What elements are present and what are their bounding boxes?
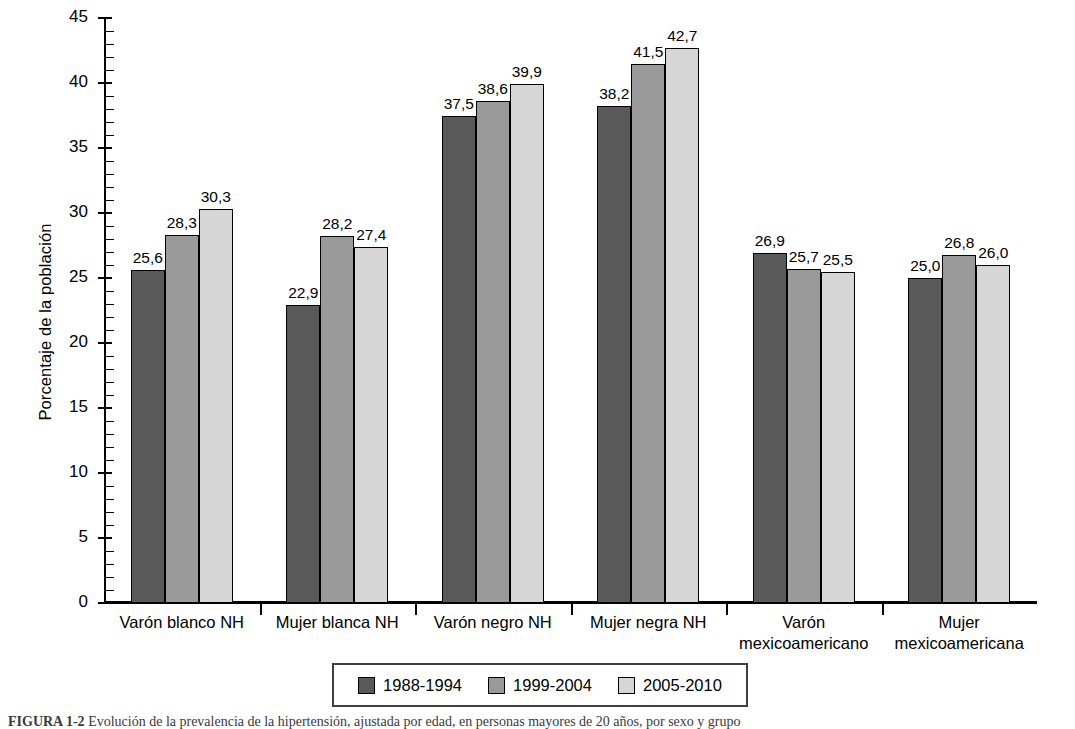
figure-caption: FIGURA 1-2 Evolución de la prevalencia d… (8, 714, 1068, 729)
y-axis-tick-label: 45 (46, 7, 88, 27)
x-axis-category-line: mexicoamericana (864, 633, 1054, 654)
y-axis-tick-label: 25 (46, 267, 88, 287)
bar (787, 269, 821, 603)
bar (631, 64, 665, 604)
bar (908, 278, 942, 603)
legend-swatch (488, 677, 505, 694)
x-axis-category-label: Mujermexicoamericana (864, 612, 1054, 654)
bar-value-label: 25,5 (811, 251, 865, 269)
bar (354, 247, 388, 603)
legend-swatch (358, 677, 375, 694)
bar (131, 270, 165, 603)
bar (942, 255, 976, 603)
bar (597, 106, 631, 603)
bar-value-label: 39,9 (500, 63, 554, 81)
bar (199, 209, 233, 603)
bar (753, 253, 787, 603)
bar (320, 236, 354, 603)
chart-legend: 1988-19941999-20042005-2010 (332, 663, 748, 707)
y-axis-tick-label: 30 (46, 202, 88, 222)
bar (476, 101, 510, 603)
y-axis-tick-label: 5 (46, 527, 88, 547)
y-axis-tick-label: 15 (46, 397, 88, 417)
chart-figure: Porcentaje de la población 0510152025303… (0, 0, 1075, 729)
bar (286, 305, 320, 603)
bar-value-label: 42,7 (655, 27, 709, 45)
plot-area: 25,628,330,322,928,227,437,538,639,938,2… (104, 18, 1037, 603)
bar-value-label: 26,0 (966, 244, 1020, 262)
bar (665, 48, 699, 603)
y-axis-tick-label: 0 (46, 592, 88, 612)
legend-item: 1988-1994 (358, 676, 462, 695)
bar (165, 235, 199, 603)
legend-item: 1999-2004 (488, 676, 592, 695)
bar (821, 272, 855, 604)
legend-swatch (618, 677, 635, 694)
bar (976, 265, 1010, 603)
legend-label: 2005-2010 (643, 676, 722, 695)
bar-value-label: 30,3 (189, 188, 243, 206)
legend-label: 1999-2004 (513, 676, 592, 695)
legend-item: 2005-2010 (618, 676, 722, 695)
y-axis-tick-label: 40 (46, 72, 88, 92)
x-axis-category-line: Mujer (864, 612, 1054, 633)
figure-number: FIGURA 1-2 (8, 714, 85, 729)
y-axis-tick-label: 35 (46, 137, 88, 157)
bar (510, 84, 544, 603)
y-axis-tick-label: 20 (46, 332, 88, 352)
y-axis-tick-label: 10 (46, 462, 88, 482)
caption-text: Evolución de la prevalencia de la hipert… (88, 714, 740, 729)
bar-value-label: 27,4 (344, 226, 398, 244)
y-axis-title: Porcentaje de la población (36, 182, 60, 462)
legend-label: 1988-1994 (383, 676, 462, 695)
bar (442, 116, 476, 604)
